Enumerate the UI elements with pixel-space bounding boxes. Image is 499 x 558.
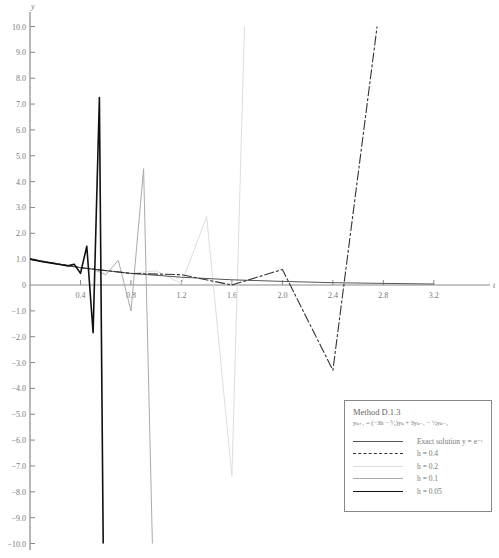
legend-label: h = 0.05: [417, 487, 442, 496]
legend-swatch-h01: [353, 478, 403, 479]
x-tick-label: 1.2: [176, 291, 186, 300]
y-tick-label: −5.0: [11, 410, 26, 419]
legend-swatch-h02: [353, 466, 403, 467]
legend-swatch-h005: [353, 491, 403, 492]
x-tick-label: 3.2: [429, 291, 439, 300]
y-tick-label: −7.0: [11, 462, 26, 471]
legend-label: h = 0.1: [417, 474, 438, 483]
legend-label: h = 0.4: [417, 449, 438, 458]
legend-item-exact: Exact solution y = e⁻ᵗ: [353, 435, 483, 448]
legend-title: Method D.1.3: [353, 407, 483, 417]
x-tick-label: 2.4: [328, 291, 338, 300]
y-tick-label: −9.0: [11, 514, 26, 523]
y-tick-label: −3.0: [11, 359, 26, 368]
y-tick-label: 9.0: [16, 48, 26, 57]
x-tick-label: 2.0: [277, 291, 287, 300]
y-tick-label: 8.0: [16, 74, 26, 83]
y-tick-label: 10.0: [12, 23, 26, 32]
x-tick-label: 2.8: [378, 291, 388, 300]
y-tick-label: 7.0: [16, 100, 26, 109]
series-line-h-0-05: [30, 98, 103, 544]
y-tick-label: −6.0: [11, 436, 26, 445]
legend-formula: yₖ₊₁ = (−3h − ³⁄₂)yₖ + 3yₖ₋₁ − ½yₖ₋₂: [353, 419, 483, 427]
x-tick-label: 0.4: [75, 291, 85, 300]
y-tick-label: −4.0: [11, 384, 26, 393]
legend-item-h005: h = 0.05: [353, 485, 483, 498]
y-tick-label: 2.0: [16, 229, 26, 238]
legend-label: Exact solution y = e⁻ᵗ: [417, 437, 482, 446]
y-tick-label: −8.0: [11, 488, 26, 497]
series-line-exact-solution-y-e-t: [30, 259, 434, 284]
y-tick-label: 4.0: [16, 178, 26, 187]
series-line-h-0-1: [30, 169, 152, 544]
y-tick-label: 6.0: [16, 126, 26, 135]
legend-swatch-exact: [353, 441, 403, 442]
series-line-h-0-2: [30, 27, 245, 477]
series-line-h-0-4: [30, 27, 377, 371]
y-tick-label: −2.0: [11, 333, 26, 342]
y-axis-label: y: [30, 2, 35, 11]
legend-label: h = 0.2: [417, 462, 438, 471]
y-tick-label: 1.0: [16, 255, 26, 264]
legend: Method D.1.3 yₖ₊₁ = (−3h − ³⁄₂)yₖ + 3yₖ₋…: [344, 400, 492, 512]
x-axis-label: t: [493, 281, 496, 290]
y-tick-label: 5.0: [16, 152, 26, 161]
legend-item-h02: h = 0.2: [353, 460, 483, 473]
x-tick-label: 1.6: [227, 291, 237, 300]
legend-swatch-h04: [353, 453, 403, 454]
legend-item-h01: h = 0.1: [353, 473, 483, 486]
legend-item-h04: h = 0.4: [353, 448, 483, 461]
y-tick-label: 3.0: [16, 203, 26, 212]
y-tick-label: 0: [22, 281, 26, 290]
y-tick-label: −10.0: [7, 540, 26, 549]
y-tick-label: −1.0: [11, 307, 26, 316]
